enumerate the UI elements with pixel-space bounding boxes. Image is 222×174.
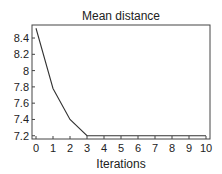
line-chart: Mean distance 7.27.47.67.888.28.4 012345…	[0, 0, 222, 174]
x-tick-label: 1	[50, 142, 56, 154]
y-tick-label: 7.2	[14, 130, 29, 142]
y-tick-label: 8.4	[14, 32, 29, 44]
x-tick-label: 10	[200, 142, 212, 154]
y-tick-label: 8	[23, 65, 29, 77]
chart-title: Mean distance	[82, 9, 160, 23]
x-tick-label: 4	[101, 142, 107, 154]
y-tick-label: 7.4	[14, 113, 29, 125]
series-group	[36, 28, 206, 136]
x-tick-label: 6	[135, 142, 141, 154]
x-tick-label: 9	[186, 142, 192, 154]
y-tick-label: 7.8	[14, 81, 29, 93]
x-tick-label: 7	[152, 142, 158, 154]
y-tick-label: 7.6	[14, 97, 29, 109]
series-line	[36, 28, 206, 135]
x-tick-label: 8	[169, 142, 175, 154]
x-tick-label: 3	[84, 142, 90, 154]
y-tick-label: 8.2	[14, 48, 29, 60]
x-tick-label: 0	[33, 142, 39, 154]
plot-frame	[32, 25, 210, 139]
x-axis-label: Iterations	[96, 157, 145, 171]
x-tick-label: 5	[118, 142, 124, 154]
x-tick-label: 2	[67, 142, 73, 154]
